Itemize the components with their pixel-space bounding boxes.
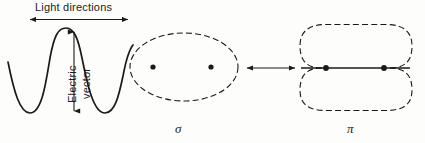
pi-orbital-label: π [347, 122, 354, 135]
diagram-canvas [0, 0, 425, 143]
sigma-nucleus-left [150, 64, 155, 69]
sigma-orbital-label: σ [175, 122, 181, 135]
pi-nucleus-left [323, 65, 329, 71]
electric-vector-label-line2: vector [81, 68, 92, 99]
pi-orbital-lower-lobe [300, 68, 412, 111]
pi-nucleus-right [381, 65, 387, 71]
pi-orbital-upper-lobe [300, 25, 412, 69]
polarized-light-orbital-diagram: Light directions Electric vector σ π [0, 0, 425, 143]
electric-vector-label-line1: Electric [67, 65, 78, 103]
light-directions-label: Light directions [35, 2, 112, 13]
sigma-nucleus-right [208, 64, 213, 69]
sigma-orbital-outline [130, 33, 238, 101]
